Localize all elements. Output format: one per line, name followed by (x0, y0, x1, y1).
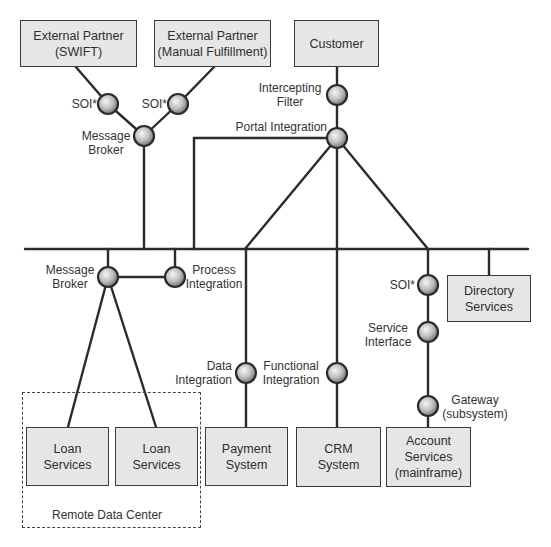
node-intercepting-filter (327, 85, 347, 105)
box-line: System (226, 457, 268, 473)
system-loan-services-1: Loan Services (26, 427, 109, 486)
box-line: Payment (222, 441, 271, 457)
label-message-broker-bottom: Message Broker (42, 263, 98, 291)
system-external-partner-manual: External Partner (Manual Fulfillment) (154, 20, 271, 67)
node-portal-integration (327, 128, 347, 148)
label-soi-manual: SOI* (138, 97, 167, 111)
system-account-services: Account Services (mainframe) (386, 427, 471, 487)
box-line: Account (406, 433, 451, 449)
box-line: Services (44, 457, 92, 473)
node-soi-swift (98, 94, 118, 114)
label-process-integration: Process Integration (182, 263, 246, 291)
box-line: Customer (309, 36, 363, 52)
box-line: Loan (143, 441, 171, 457)
box-line: System (318, 457, 360, 473)
box-line: External Partner (33, 28, 123, 44)
remote-data-center-label: Remote Data Center (52, 508, 162, 522)
node-data-integration (236, 363, 256, 383)
label-soi-swift: SOI* (68, 97, 97, 111)
node-functional-integration (327, 363, 347, 383)
box-line: (Manual Fulfillment) (158, 44, 268, 60)
node-soi-manual (168, 94, 188, 114)
node-message-broker-bottom (98, 267, 118, 287)
system-loan-services-2: Loan Services (115, 427, 198, 486)
label-intercepting-filter: Intercepting Filter (253, 81, 327, 109)
label-gateway: Gateway (subsystem) (440, 393, 510, 421)
system-crm: CRM System (296, 427, 381, 487)
box-line: Loan (54, 441, 82, 457)
system-payment: Payment System (205, 427, 288, 486)
box-line: (SWIFT) (55, 44, 102, 60)
box-line: (mainframe) (395, 465, 462, 481)
box-line: Services (465, 299, 513, 315)
box-line: Services (133, 457, 181, 473)
node-service-interface (418, 322, 438, 342)
box-line: CRM (324, 441, 352, 457)
system-customer: Customer (294, 20, 379, 67)
label-portal-integration: Portal Integration (220, 120, 327, 134)
system-directory-services: Directory Services (447, 275, 531, 322)
box-line: External Partner (167, 28, 257, 44)
box-line: Directory (464, 283, 514, 299)
node-soi-account (418, 275, 438, 295)
label-soi-account: SOI* (385, 278, 415, 292)
label-service-interface: Service Interface (358, 321, 418, 349)
node-gateway (418, 396, 438, 416)
label-data-integration: Data Integration (168, 359, 232, 387)
node-message-broker-top (134, 126, 154, 146)
label-functional-integration: Functional Integration (258, 359, 324, 387)
box-line: Services (405, 449, 453, 465)
system-external-partner-swift: External Partner (SWIFT) (20, 20, 137, 67)
label-message-broker-top: Message Broker (78, 129, 134, 157)
